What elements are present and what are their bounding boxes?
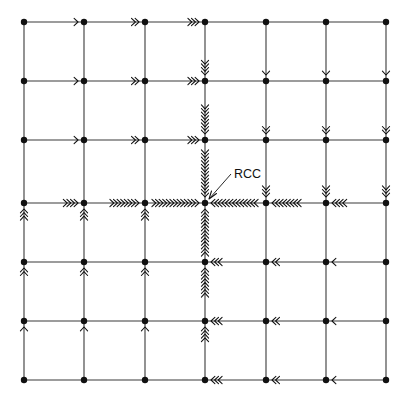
- grid-node-r3-c2: [142, 200, 148, 206]
- grid-node-r1-c6: [383, 78, 389, 84]
- grid-node-r0-c1: [81, 19, 87, 25]
- grid-node-r2-c2: [142, 137, 148, 143]
- grid-node-r6-c2: [142, 377, 148, 383]
- grid-node-r6-c0: [21, 377, 27, 383]
- grid-node-r1-c4: [263, 78, 269, 84]
- grid-node-r4-c6: [383, 259, 389, 265]
- rcc-annotation: RCC: [209, 167, 261, 199]
- grid-node-r5-c1: [81, 318, 87, 324]
- flow-arrow-h-r3-s1: [110, 199, 139, 206]
- rcc-label: RCC: [234, 167, 261, 181]
- grid-node-r5-c6: [383, 318, 389, 324]
- grid-node-r0-c4: [263, 19, 269, 25]
- grid-node-r2-c0: [21, 137, 27, 143]
- flow-net-diagram: RCC: [0, 0, 409, 399]
- grid-node-r3-c6: [383, 200, 389, 206]
- grid-node-r3-c4: [263, 200, 269, 206]
- grid-node-r1-c3: [202, 78, 208, 84]
- grid-node-r1-c1: [81, 78, 87, 84]
- rcc-leader-line: [209, 174, 231, 199]
- grid-node-r5-c2: [142, 318, 148, 324]
- flow-net-canvas: RCC: [0, 0, 409, 399]
- grid-node-r0-c3: [202, 19, 208, 25]
- grid-node-r6-c3: [202, 377, 208, 383]
- grid-node-r0-c5: [323, 19, 329, 25]
- grid-node-r0-c0: [21, 19, 27, 25]
- flow-arrow-v-c3-s4: [201, 268, 208, 297]
- flow-arrow-v-c3-s1: [201, 105, 208, 134]
- grid-node-r3-c1: [81, 200, 87, 206]
- grid-node-r6-c1: [81, 377, 87, 383]
- grid-node-r5-c0: [21, 318, 27, 324]
- grid-node-r1-c0: [21, 78, 27, 84]
- grid-node-r1-c2: [142, 78, 148, 84]
- flow-arrow-h-r3-s4: [272, 199, 301, 206]
- rcc-center-node: [202, 200, 208, 206]
- grid-node-r6-c5: [323, 377, 329, 383]
- grid-node-r4-c0: [21, 259, 27, 265]
- grid-node-r2-c6: [383, 137, 389, 143]
- grid-node-r6-c6: [383, 377, 389, 383]
- grid-node-r2-c3: [202, 137, 208, 143]
- grid-node-r3-c0: [21, 200, 27, 206]
- grid-node-r4-c2: [142, 259, 148, 265]
- grid-node-r5-c4: [263, 318, 269, 324]
- grid-node-r4-c3: [202, 259, 208, 265]
- grid-node-r0-c2: [142, 19, 148, 25]
- grid-node-r2-c4: [263, 137, 269, 143]
- grid-node-r0-c6: [383, 19, 389, 25]
- grid-node-r1-c5: [323, 78, 329, 84]
- grid-node-r2-c1: [81, 137, 87, 143]
- grid-node-r6-c4: [263, 377, 269, 383]
- grid-node-r4-c4: [263, 259, 269, 265]
- grid-node-r5-c5: [323, 318, 329, 324]
- grid-node-r4-c1: [81, 259, 87, 265]
- grid-node-r2-c5: [323, 137, 329, 143]
- grid-node-r4-c5: [323, 259, 329, 265]
- grid-node-r3-c5: [323, 200, 329, 206]
- grid-node-r5-c3: [202, 318, 208, 324]
